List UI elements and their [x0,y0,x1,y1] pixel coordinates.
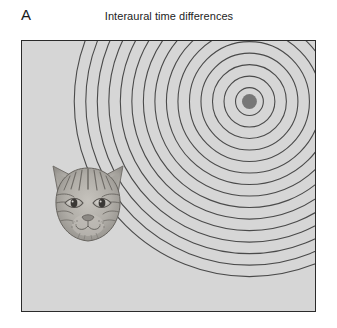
cat-right-eye-highlight [100,200,102,202]
cat-nose [82,215,94,221]
figure-root: A Interaural time differences [0,0,337,328]
cat-right-pupil [99,199,106,207]
page-title: Interaural time differences [21,9,317,23]
cat-left-pupil [71,199,78,207]
sound-source-dot [242,94,257,109]
cat-head-illustration [46,159,130,253]
stimulus-panel [21,40,316,312]
cat-left-eye-highlight [72,200,74,202]
